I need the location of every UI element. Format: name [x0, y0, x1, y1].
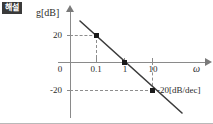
bode-magnitude-plot-figure: 해설 g[dB] ω 0 20 -20 0.1 1 10 -20[dB/dec] [0, 0, 213, 124]
asymptote-line [0, 0, 213, 124]
data-point-marker-1 [122, 60, 127, 65]
data-point-marker-0.1 [94, 33, 99, 38]
data-point-marker-10 [150, 88, 155, 93]
slope-annotation-label: -20[dB/dec] [157, 85, 200, 95]
